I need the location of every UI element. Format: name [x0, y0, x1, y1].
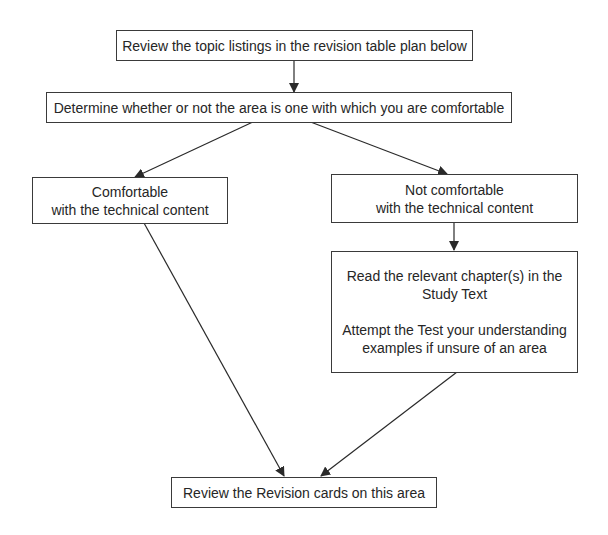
arrow-read-to-review-cards [321, 372, 457, 476]
arrow-determine-to-not-comfortable [308, 121, 447, 174]
node-read-study-line-1: Read the relevant chapter(s) in the [347, 267, 563, 285]
node-read-study: Read the relevant chapter(s) in the Stud… [331, 251, 578, 373]
node-determine: Determine whether or not the area is one… [46, 92, 512, 123]
node-read-study-line-4: examples if unsure of an area [362, 339, 546, 357]
node-comfortable: Comfortable with the technical content [32, 177, 228, 224]
arrow-comfortable-to-review-cards [144, 223, 284, 476]
node-review-cards: Review the Revision cards on this area [171, 477, 437, 508]
node-review-cards-text: Review the Revision cards on this area [183, 484, 425, 502]
node-read-study-line-3: Attempt the Test your understanding [342, 321, 567, 339]
node-not-comfortable: Not comfortable with the technical conte… [331, 174, 578, 223]
node-not-comfortable-line-2: with the technical content [376, 199, 533, 217]
node-read-study-line-2: Study Text [422, 285, 487, 303]
node-comfortable-line-1: Comfortable [92, 183, 168, 201]
node-comfortable-line-2: with the technical content [51, 201, 208, 219]
node-determine-text: Determine whether or not the area is one… [54, 99, 505, 117]
node-review-topics-text: Review the topic listings in the revisio… [122, 37, 467, 55]
arrow-determine-to-comfortable [135, 121, 255, 177]
node-review-topics: Review the topic listings in the revisio… [116, 30, 473, 61]
flowchart-canvas: Review the topic listings in the revisio… [0, 0, 608, 535]
node-not-comfortable-line-1: Not comfortable [405, 181, 504, 199]
